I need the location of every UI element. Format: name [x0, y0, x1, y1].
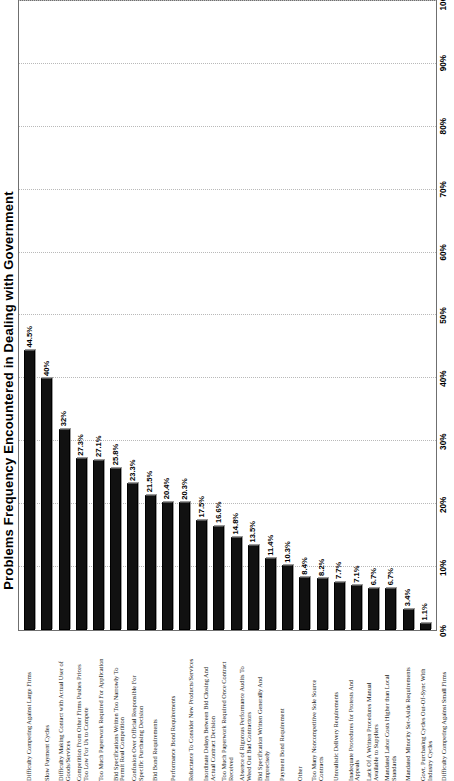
bar-value-label: 6.7%: [370, 568, 378, 585]
bar: [282, 565, 293, 630]
bar: [162, 502, 173, 630]
bar-row: 14.8%: [227, 1, 244, 630]
bar-value-label: 32%: [60, 411, 68, 426]
bar-row: 3.4%: [399, 1, 416, 630]
category-label: Too Much Paperwork Required Once Contrac…: [219, 631, 237, 781]
bar-series: 44.5%40%32%27.3%27.1%25.8%23.3%21.5%20.4…: [19, 1, 436, 630]
bar-value-label: 7.7%: [335, 562, 343, 579]
category-label: Bid Specifications Written Too Narrowly …: [110, 631, 128, 781]
bar: [351, 585, 362, 630]
bar-row: 44.5%: [21, 1, 38, 630]
category-label: Lack Of A Written Procedures Manual Avai…: [363, 631, 381, 781]
category-label-text: Too Many Noncompetitive Sole Source Cont…: [311, 634, 325, 781]
category-label: Inordinate Delays Between Bid Closing An…: [201, 631, 219, 781]
category-label-text: Govt. Purchasing Cycles Out-Of-Sync With…: [420, 634, 434, 781]
bar: [196, 520, 207, 630]
plot-row: Difficulty Competing Against Large Firms…: [18, 0, 454, 781]
value-axis-tick: 50%: [439, 307, 448, 323]
bar-row: 7.7%: [331, 1, 348, 630]
bar: [179, 502, 190, 630]
bar: [265, 558, 276, 630]
bar-value-label: 10.3%: [284, 541, 292, 563]
bar-value-label: 27.3%: [77, 434, 85, 456]
category-label-text: Slow Payment Cycles: [44, 634, 51, 781]
bar-value-label: 44.5%: [26, 326, 34, 348]
bar-value-label: 17.5%: [198, 496, 206, 518]
category-label-text: Payment Bond Requirement: [279, 634, 286, 781]
bar-row: 10.3%: [279, 1, 296, 630]
category-label: Difficulty Making Contact with Actual Us…: [56, 631, 74, 781]
category-label-text: Too Much Paperwork Required Once Contrac…: [221, 634, 235, 781]
bar: [299, 577, 310, 630]
bar-value-label: 20.4%: [163, 478, 171, 500]
category-label-text: Confusion Over Official Responsible For …: [131, 634, 145, 781]
category-label: Difficulty Competing Against Small Firms: [436, 631, 454, 781]
bar-row: 8.2%: [313, 1, 330, 630]
bar-row: 23.3%: [124, 1, 141, 630]
bar-row: 7.1%: [348, 1, 365, 630]
category-label-text: Other: [297, 634, 304, 781]
category-label: Payment Bond Requirement: [273, 631, 291, 781]
category-label-text: Bid Specifications Written Too Narrowly …: [113, 634, 127, 781]
category-label: Too Many Noncompetitive Sole Source Cont…: [309, 631, 327, 781]
value-axis-tick: 100%: [439, 0, 448, 10]
category-label: Difficulty Competing Against Large Firms: [20, 631, 38, 781]
value-axis-tick: 0%: [439, 625, 448, 637]
bar-row: 21.5%: [141, 1, 158, 630]
bar-value-label: 11.4%: [267, 535, 275, 556]
category-label: Other: [291, 631, 309, 781]
category-label-text: Difficulty Competing Against Large Firms: [26, 634, 33, 781]
bar: [385, 588, 396, 630]
category-label: Competition From Other Firms Pushes Pric…: [74, 631, 92, 781]
category-label-text: Bid Specification Written Generally And …: [257, 634, 271, 781]
bar: [403, 609, 414, 630]
value-axis-tick: 70%: [439, 181, 448, 197]
category-label-text: Lack Of A Written Procedures Manual Avai…: [366, 634, 380, 781]
category-label: Mandated Labor Costs Higher than Local S…: [382, 631, 400, 781]
value-axis-tick: 40%: [439, 370, 448, 386]
bar-value-label: 14.8%: [232, 513, 240, 535]
category-label-text: Unrealistic Delivery Requirements: [333, 634, 340, 781]
bar: [231, 537, 242, 630]
bar-value-label: 23.3%: [129, 459, 137, 481]
bar-value-label: 20.3%: [181, 478, 189, 500]
bar: [145, 495, 156, 630]
category-label-text: Absence of Rigorous Performance Audits T…: [239, 634, 253, 781]
bar-chart: Problems Frequency Encountered in Dealin…: [0, 0, 454, 781]
value-axis: 0%10%20%30%40%50%60%70%80%90%100%: [437, 0, 454, 631]
category-label: Unrealistic Delivery Requirements: [327, 631, 345, 781]
category-label-text: Bid Bond Requirements: [152, 634, 159, 781]
bar-row: 27.3%: [73, 1, 90, 630]
bar-value-label: 16.6%: [215, 502, 223, 524]
category-label: Too Much Paperwork Required For Applicat…: [92, 631, 110, 781]
category-label: Slow Payment Cycles: [38, 631, 56, 781]
chart-title: Problems Frequency Encountered in Dealin…: [0, 0, 18, 781]
bar-row: 1.1%: [417, 1, 434, 630]
bar-value-label: 40%: [43, 361, 51, 376]
bar-value-label: 25.8%: [112, 444, 120, 466]
value-axis-tick: 30%: [439, 434, 448, 450]
bar: [317, 578, 328, 630]
value-axis-tick: 10%: [439, 560, 448, 576]
bar: [420, 623, 431, 630]
plot-area: 44.5%40%32%27.3%27.1%25.8%23.3%21.5%20.4…: [18, 0, 437, 631]
value-axis-tick: 60%: [439, 244, 448, 260]
bar-row: 11.4%: [262, 1, 279, 630]
bar: [24, 350, 35, 630]
category-label-text: Reluctance To Consider New Products/Serv…: [188, 634, 195, 781]
bar: [93, 460, 104, 630]
category-label-text: Difficulty Competing Against Small Firms: [441, 634, 448, 781]
bar-value-label: 1.1%: [421, 603, 429, 620]
bar-row: 17.5%: [193, 1, 210, 630]
category-axis: Difficulty Competing Against Large Firms…: [18, 631, 454, 781]
bar: [368, 588, 379, 630]
category-label-text: Inadequate Procedures for Protests And A…: [348, 634, 362, 781]
category-label-text: Difficulty Making Contact with Actual Us…: [58, 634, 72, 781]
category-label-text: Performance Bond Requirements: [170, 634, 177, 781]
bar-row: 6.7%: [365, 1, 382, 630]
category-label-text: Too Much Paperwork Required For Applicat…: [98, 634, 105, 781]
category-label: Bid Specification Written Generally And …: [255, 631, 273, 781]
category-label: Confusion Over Official Responsible For …: [128, 631, 146, 781]
bar: [127, 483, 138, 630]
category-label-text: Mandated Minority Set-Aside Requirements: [405, 634, 412, 781]
